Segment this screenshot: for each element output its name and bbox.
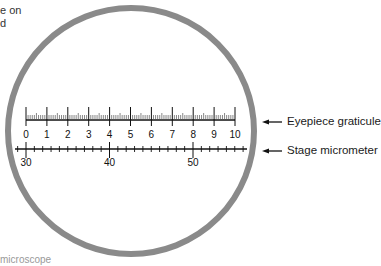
stage-micrometer-scale: 304050 xyxy=(15,142,247,168)
micrometer-tick-label: 40 xyxy=(104,157,116,168)
stage-micrometer-label: Stage micrometer xyxy=(287,144,378,156)
graticule-tick-label: 5 xyxy=(128,129,134,140)
arrow-left-icon xyxy=(262,149,282,154)
graticule-tick-label: 6 xyxy=(149,129,155,140)
graticule-tick-label: 10 xyxy=(229,129,241,140)
graticule-tick-label: 0 xyxy=(23,129,29,140)
graticule-tick-label: 4 xyxy=(107,129,113,140)
eyepiece-graticule-scale: 012345678910 xyxy=(23,107,241,140)
arrow-left-icon xyxy=(262,120,282,125)
graticule-tick-label: 9 xyxy=(211,129,217,140)
graticule-tick-label: 3 xyxy=(86,129,92,140)
micrometer-tick-label: 30 xyxy=(20,157,32,168)
eyepiece-graticule-label: Eyepiece graticule xyxy=(287,115,381,127)
graticule-tick-label: 2 xyxy=(65,129,71,140)
graticule-tick-label: 7 xyxy=(170,129,176,140)
graticule-tick-label: 8 xyxy=(190,129,196,140)
micrometer-tick-label: 50 xyxy=(187,157,199,168)
graticule-tick-label: 1 xyxy=(44,129,50,140)
